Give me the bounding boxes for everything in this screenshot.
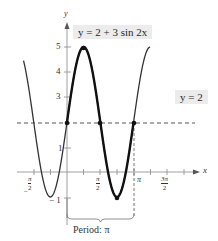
period-label: Period: π [73,224,109,235]
period-bracket [67,214,134,222]
denominator: 2 [96,184,100,192]
y-tick-5: 5 [56,41,61,51]
y-tick-3: 3 [56,91,61,101]
numerator: π [96,175,100,184]
numerator: 3π [161,175,168,184]
y-tick-4: 4 [56,66,61,76]
equation-label: y = 2 + 3 sin 2x [73,25,152,39]
y-tick-1: 1 [58,143,63,153]
x-tick-three-half-pi: 3π2 [161,175,168,192]
minus-sign: − [24,188,28,196]
denominator: 2 [28,184,32,192]
denominator: 2 [161,184,168,192]
y-tick-neg1: − 1 [49,195,61,205]
numerator: π [28,175,32,184]
x-tick-neg-half-pi: −π2 [24,175,31,192]
x-axis-label: x [203,165,207,175]
sine-curve [24,47,151,197]
y-axis-label: y [64,9,68,18]
x-tick-half-pi: π2 [96,175,100,192]
x-tick-pi: π [137,175,141,184]
midline-label: y = 2 [175,90,208,104]
y-axis-arrow-icon [65,22,70,29]
x-axis-arrow-icon [193,170,200,175]
